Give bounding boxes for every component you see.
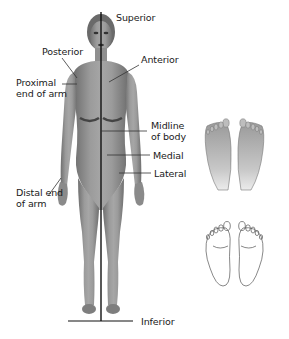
label-midline-line2: of body	[151, 131, 186, 142]
label-proximal-line1: Proximal	[16, 77, 67, 88]
label-anterior: Anterior	[141, 54, 179, 65]
label-medial: Medial	[153, 150, 184, 161]
label-proximal-line2: end of arm	[16, 88, 67, 99]
label-inferior: Inferior	[141, 316, 174, 327]
dorsal-feet-illustration	[205, 119, 264, 190]
label-lateral: Lateral	[154, 168, 186, 179]
label-distal-end-of-arm: Distal end of arm	[16, 187, 63, 209]
label-distal-line1: Distal end	[16, 187, 63, 198]
label-posterior: Posterior	[42, 46, 83, 57]
label-superior: Superior	[116, 12, 155, 23]
anatomy-diagram: Dorsal surface Plantar surface Superior …	[0, 0, 289, 339]
label-midline-line1: Midline	[151, 120, 186, 131]
label-distal-line2: of arm	[16, 198, 63, 209]
label-midline-of-body: Midline of body	[151, 120, 186, 142]
plantar-feet-illustration	[206, 222, 263, 287]
label-proximal-end-of-arm: Proximal end of arm	[16, 77, 67, 99]
